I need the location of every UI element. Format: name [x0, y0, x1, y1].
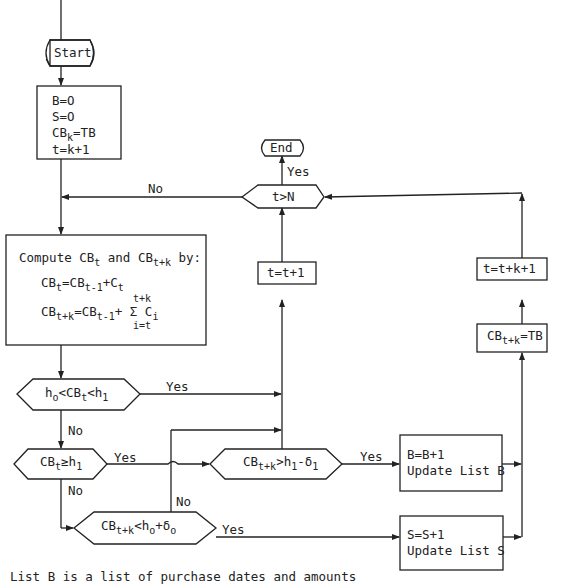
decision-range: ho<CBt<h1	[45, 387, 108, 400]
init-line-t: t=k+1	[52, 142, 96, 158]
process-t-inc-k: t=t+k+1	[483, 263, 536, 276]
compute-eq2-lower: i=t	[133, 321, 201, 331]
process-sell: S=S+1 Update List S	[407, 527, 505, 559]
edge-label-no-ge: No	[68, 485, 83, 498]
start-label: Start	[54, 45, 92, 60]
init-line-b: B=O	[52, 93, 96, 109]
process-buy: B=B+1 Update List B	[407, 447, 505, 479]
sell-increment: S=S+1	[407, 527, 505, 543]
decision-cbtk-gt: CBt+k>h1-δ1	[243, 456, 318, 469]
edge-label-no-loop: No	[148, 183, 163, 196]
end-terminal: End	[270, 142, 293, 155]
edge-label-yes-buy: Yes	[360, 451, 383, 464]
init-line-cbk: CBk=TB	[52, 125, 96, 142]
decision-cbt-ge-h1: CBt≥h1	[40, 456, 82, 469]
edge-label-yes-end: Yes	[287, 166, 310, 179]
buy-increment: B=B+1	[407, 447, 505, 463]
sell-update-list: Update List S	[407, 543, 505, 559]
edge-label-no-range: No	[68, 425, 83, 438]
compute-title: Compute CBt and CBt+k by:	[19, 250, 201, 267]
process-cbtk-tb: CBt+k=TB	[487, 330, 543, 343]
edge-label-yes-sell: Yes	[222, 524, 245, 537]
init-line-s: S=O	[52, 109, 96, 125]
start-terminal: Start	[54, 47, 92, 60]
decision-t-gt-n: t>N	[272, 191, 295, 204]
end-label: End	[270, 140, 293, 155]
edge-label-yes-range: Yes	[166, 381, 189, 394]
footnote: List B is a list of purchase dates and a…	[10, 571, 356, 584]
edge-label-no-lt: No	[176, 496, 191, 509]
decision-cbtk-lt: CBt+k<ho+δo	[101, 520, 176, 533]
init-box: B=O S=O CBk=TB t=k+1	[52, 93, 96, 158]
compute-eq2-upper: t+k	[133, 294, 201, 304]
compute-eq2: CBt+k=CBt-1+ Σ Ci	[41, 304, 201, 321]
edge-label-yes-ge: Yes	[114, 452, 137, 465]
compute-box: Compute CBt and CBt+k by: CBt=CBt-1+Ct t…	[19, 250, 201, 331]
process-t-inc: t=t+1	[267, 267, 305, 280]
buy-update-list: Update List B	[407, 463, 505, 479]
compute-eq1: CBt=CBt-1+Ct	[41, 275, 201, 292]
